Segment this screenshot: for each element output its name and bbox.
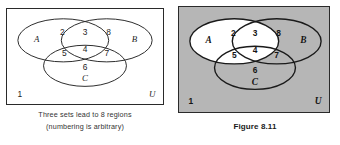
region-number-2: 2	[231, 28, 236, 38]
region-number-7: 7	[274, 50, 279, 60]
region-number-8: 8	[106, 27, 111, 37]
universe-rectangle-right: A B C U 1 2 3 4 5 6 7 8	[178, 6, 330, 113]
region-number-6: 6	[253, 65, 258, 75]
region-number-3: 3	[253, 28, 258, 38]
region-number-1: 1	[189, 96, 194, 106]
set-label-b: B	[299, 35, 306, 45]
universe-rectangle-left: A B C U 1 2 3 4 5 6 7 8	[6, 8, 164, 105]
region-number-4: 4	[253, 45, 258, 55]
region-number-4: 4	[83, 44, 88, 54]
right-figure-panel: A B C U 1 2 3 4 5 6 7 8 Figure 8.11	[170, 0, 340, 145]
set-label-c: C	[82, 74, 88, 84]
set-label-c: C	[252, 77, 259, 87]
universe-label: U	[149, 89, 156, 99]
set-label-a: A	[33, 34, 40, 44]
set-label-a: A	[204, 35, 211, 45]
universe-label: U	[315, 96, 323, 106]
left-figure-panel: A B C U 1 2 3 4 5 6 7 8 Three sets lead …	[0, 0, 170, 145]
region-number-2: 2	[60, 27, 65, 37]
region-number-5: 5	[232, 50, 237, 60]
venn-diagram-right: A B C U 1 2 3 4 5 6 7 8	[179, 7, 329, 112]
region-number-1: 1	[18, 89, 23, 99]
region-number-3: 3	[83, 27, 88, 37]
set-label-b: B	[132, 34, 138, 44]
venn-diagram-left: A B C U 1 2 3 4 5 6 7 8	[7, 9, 163, 104]
region-number-5: 5	[62, 48, 67, 58]
figure-caption: Figure 8.11	[170, 122, 340, 131]
region-number-7: 7	[104, 48, 109, 58]
region-number-6: 6	[83, 62, 88, 72]
shading-region-set-a	[179, 7, 329, 112]
caption-line-one: Three sets lead to 8 regions	[0, 110, 170, 119]
region-number-8: 8	[276, 28, 281, 38]
caption-line-two: (numbering is arbitrary)	[0, 122, 170, 131]
